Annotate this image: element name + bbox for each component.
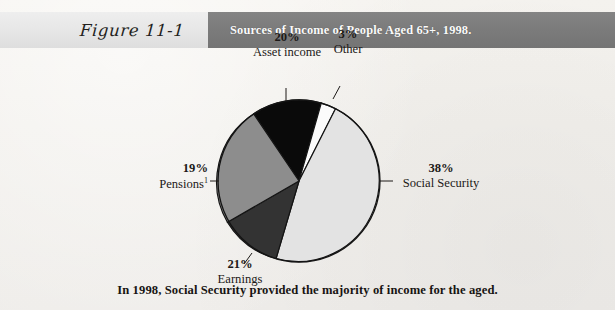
pie-label-pensions-name: Pensions	[159, 177, 204, 191]
pie-label-social-security: 38% Social Security	[386, 161, 496, 191]
figure-number-label: Figure 11-1	[79, 21, 185, 40]
pie-label-social-security-name: Social Security	[403, 176, 480, 190]
pie-label-pensions: 19% Pensions1	[118, 161, 208, 192]
pie-label-other: 3% Other	[320, 27, 376, 57]
pie-label-pensions-pct: 19%	[118, 161, 208, 176]
pie-label-asset-income-name: Asset income	[253, 45, 321, 59]
pie-chart-area: 20% Asset income 3% Other 38% Social Sec…	[0, 48, 615, 280]
pie-chart	[0, 48, 615, 280]
pie-label-other-name: Other	[334, 42, 363, 56]
pie-label-pensions-footnote-marker: 1	[204, 176, 208, 185]
pie-label-other-pct: 3%	[320, 27, 376, 42]
pie-label-social-security-pct: 38%	[386, 161, 496, 176]
pie-label-earnings-pct: 21%	[192, 257, 288, 272]
figure-number-band: Figure 11-1	[0, 12, 208, 48]
leader-line-other	[333, 86, 340, 99]
figure-caption: In 1998, Social Security provided the ma…	[0, 283, 615, 298]
